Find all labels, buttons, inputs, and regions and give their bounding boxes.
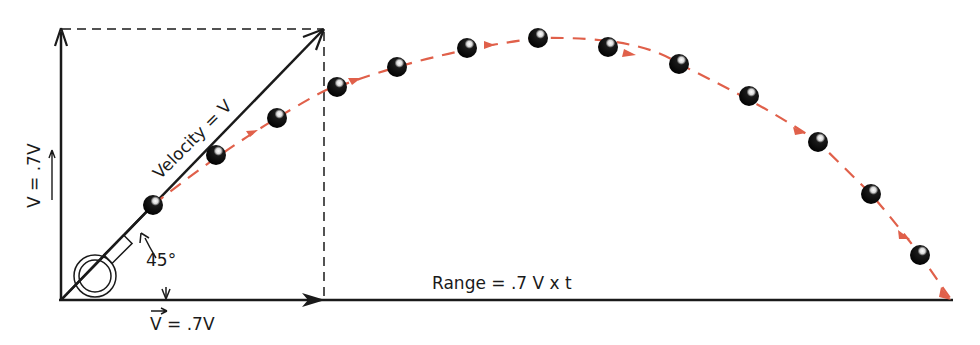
trajectory-arrowhead-icon <box>348 78 361 85</box>
ball-icon <box>387 57 407 77</box>
ball-icon <box>910 245 930 265</box>
vertical-component-arrow-icon <box>49 150 55 200</box>
horizontal-component-label: V = .7V <box>150 314 215 334</box>
velocity-label: Velocity = V <box>149 95 236 182</box>
angle-label: 45° <box>146 250 176 270</box>
trajectory-arrowhead-icon <box>898 230 910 239</box>
balls <box>143 28 930 265</box>
ball-icon <box>861 184 881 204</box>
ball-icon <box>528 28 548 48</box>
ball-icon <box>267 108 287 128</box>
trajectory-arrowhead-icon <box>484 41 495 49</box>
vertical-component-label: V = .7V <box>24 143 44 208</box>
projectile-diagram: 45° Velocity = V V = .7V V = .7V Range =… <box>0 0 980 345</box>
ball-icon <box>143 195 163 215</box>
ball-icon <box>327 77 347 97</box>
trajectory-arrows <box>246 41 951 300</box>
trajectory-arrowhead-icon <box>622 49 636 57</box>
ball-icon <box>739 86 759 106</box>
ball-icon <box>206 145 226 165</box>
ball-icon <box>669 54 689 74</box>
ball-icon <box>598 37 618 57</box>
ball-icon <box>457 38 477 58</box>
trajectory-path <box>153 38 950 298</box>
range-label: Range = .7 V x t <box>432 273 572 293</box>
launcher-cannon-icon <box>61 208 150 300</box>
ball-icon <box>808 132 828 152</box>
